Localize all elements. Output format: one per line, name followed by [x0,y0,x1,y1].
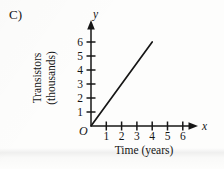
x-tick-label-2: 2 [119,130,125,142]
x-tick-label-6: 6 [180,130,186,142]
x-axis-arrowhead [189,122,199,130]
x-tick-label-5: 5 [165,130,171,142]
x-tick-label-4: 4 [149,130,155,142]
y-tick-label-2: 2 [77,92,83,104]
y-tick-label-1: 1 [77,106,83,118]
x-axis-symbol: x [201,120,208,132]
y-tick-label-5: 5 [77,50,83,62]
y-tick-label-6: 6 [77,36,83,48]
x-tick-label-3: 3 [134,130,140,142]
figure-panel: C) Transistors (thousands) Time (years) … [0,0,224,169]
y-axis-arrowhead [87,20,95,30]
origin-label: O [79,124,88,138]
x-tick-label-1: 1 [103,130,109,142]
line-chart: 1 2 3 4 5 6 1 2 3 4 5 6 y x O [0,0,224,169]
y-axis-symbol: y [92,8,99,21]
y-tick-label-3: 3 [77,78,83,90]
y-tick-label-4: 4 [77,64,83,76]
data-series-line [91,42,152,126]
